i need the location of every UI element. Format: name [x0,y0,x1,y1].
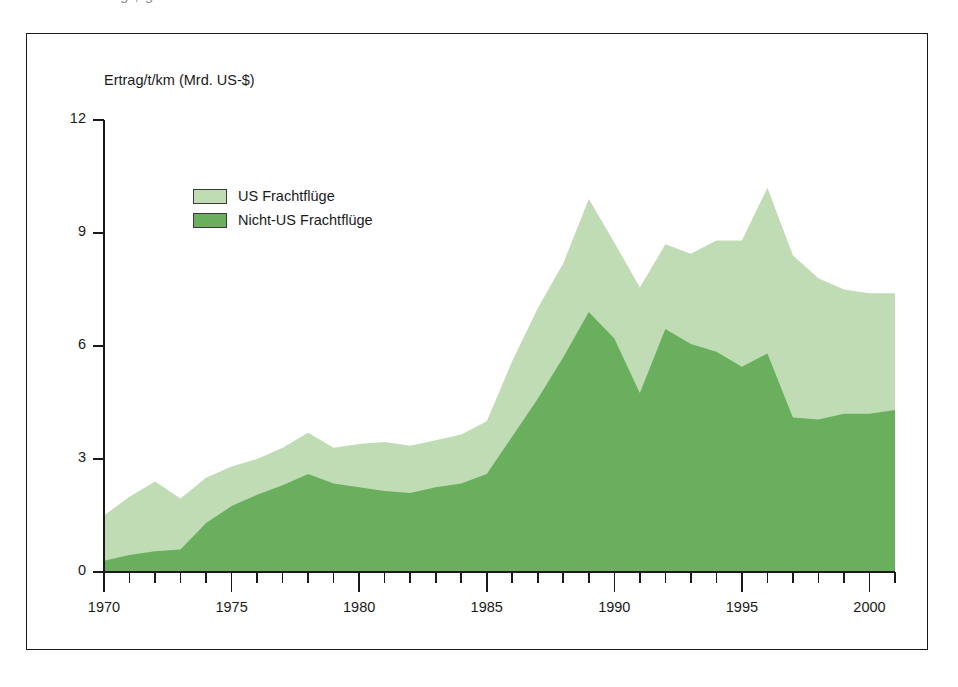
legend-item-nicht-us[interactable]: Nicht-US Frachtflüge [193,210,373,231]
legend-swatch-nicht-us [193,213,227,228]
legend-label-nicht-us: Nicht-US Frachtflüge [238,213,373,228]
y-axis-ticks [93,120,104,572]
y-tick-label-0: 0 [60,562,86,578]
chart-legend: US Frachtflüge Nicht-US Frachtflüge [193,186,373,234]
x-axis-ticks [104,572,895,592]
area-chart-plot [0,0,958,687]
y-tick-label-12: 12 [60,110,86,126]
legend-label-us: US Frachtflüge [238,189,335,204]
x-tick-label-1980: 1980 [333,599,385,615]
x-tick-label-2000: 2000 [843,599,895,615]
x-tick-label-1975: 1975 [206,599,258,615]
y-tick-label-9: 9 [60,223,86,239]
legend-item-us[interactable]: US Frachtflüge [193,186,373,207]
y-axis-title: Ertrag/t/km (Mrd. US-$) [104,72,255,88]
chart-area: Ertrag/t/km (Mrd. US-$) US Frachtflüge N… [0,0,958,687]
series-areas [104,188,895,572]
x-tick-label-1970: 1970 [78,599,130,615]
y-tick-label-3: 3 [60,449,86,465]
x-tick-label-1990: 1990 [588,599,640,615]
y-tick-label-6: 6 [60,336,86,352]
x-tick-label-1985: 1985 [461,599,513,615]
legend-swatch-us [193,189,227,204]
x-tick-label-1995: 1995 [716,599,768,615]
